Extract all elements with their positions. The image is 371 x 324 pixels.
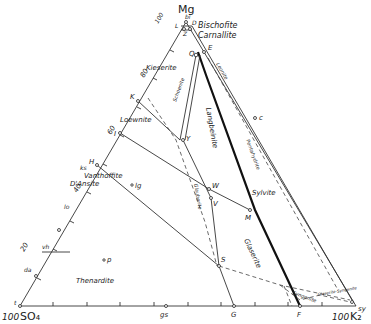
point-lo: lo xyxy=(64,203,70,210)
point-gs: gs xyxy=(160,311,168,319)
base-ticks xyxy=(53,302,322,306)
point-c: c xyxy=(259,114,263,122)
left-100: 100 xyxy=(2,312,19,322)
top-100: 100 xyxy=(153,11,165,25)
corner-so4: SO₄ xyxy=(20,310,41,323)
point-I: I xyxy=(114,130,116,138)
point-da: da xyxy=(24,266,32,273)
label-dansite: D'Ansite xyxy=(70,180,99,188)
ternary-diagram: Mg 100 100 SO₄ 100 K₂ 80 60 40 20 Bischo… xyxy=(0,0,371,324)
point-F: F xyxy=(297,311,302,319)
point-K: K xyxy=(130,93,136,101)
label-thenardite: Thenardite xyxy=(76,277,114,285)
label-sylvite: Sylvite xyxy=(252,189,276,197)
point-D: D xyxy=(192,19,197,26)
point-W: W xyxy=(212,182,220,190)
label-loewnite: Loewnite xyxy=(120,116,152,124)
point-sy: sy xyxy=(358,305,367,313)
point-ks: ks xyxy=(80,164,87,171)
tick-20: 20 xyxy=(19,241,31,253)
point-H: H xyxy=(89,158,95,166)
point-E: E xyxy=(208,44,213,52)
point-Z: Z xyxy=(182,30,188,37)
point-M: M xyxy=(245,214,251,222)
point-Q: Q xyxy=(189,50,195,58)
triangle-frame xyxy=(20,22,356,306)
right-100: 100 xyxy=(332,312,349,322)
label-kieserite: Kieserite xyxy=(146,64,177,72)
label-bischofite: Bischofite xyxy=(198,21,238,30)
point-t: t xyxy=(14,299,17,306)
label-schoenite: Schoenite xyxy=(171,77,185,102)
point-S: S xyxy=(221,256,226,264)
point-L: L xyxy=(175,22,178,29)
point-Y: Y xyxy=(186,135,191,143)
label-vanthoffite: Vanthoffite xyxy=(84,172,123,180)
point-p: p xyxy=(106,256,112,264)
point-V: V xyxy=(213,200,219,208)
label-glaser-syn: Glaserite-Syngenite xyxy=(317,285,357,297)
label-glauberite: Glauberite xyxy=(193,183,203,210)
label-glaserite: Glaserite xyxy=(242,237,263,269)
label-carnallite: Carnallite xyxy=(198,31,237,40)
point-vh: vh xyxy=(42,243,50,250)
point-lg: lg xyxy=(135,182,142,190)
left-ticks xyxy=(37,50,174,280)
point-G: G xyxy=(231,311,237,319)
point-bi: bi xyxy=(185,13,191,20)
label-langbeinite: Langbeinite xyxy=(204,107,219,149)
invariant-points xyxy=(19,21,354,308)
